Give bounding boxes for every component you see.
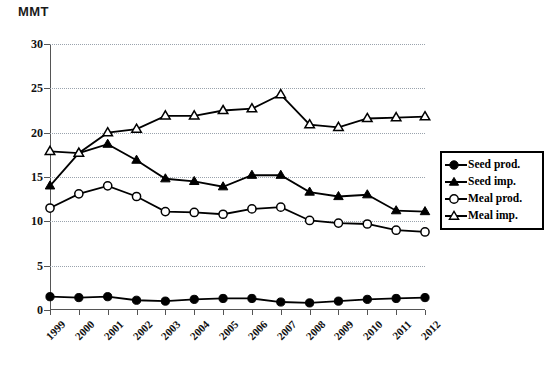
legend-label-meal-imp: Meal imp. [468,210,518,222]
chart-figure: MMT 051015202530 19992000200120022003200… [0,0,558,368]
x-tick-label: 2000 [72,318,96,342]
series-meal-prod [46,182,429,236]
x-tick-label: 1999 [43,318,67,342]
x-tick-label: 2003 [159,318,183,342]
data-point [219,294,227,302]
data-point [421,293,429,301]
data-point [45,146,55,154]
data-point [46,293,54,301]
x-tick-label: 2002 [130,318,154,342]
x-tick-label: 2010 [361,318,385,342]
x-tick-mark [367,310,368,315]
data-point [190,295,198,303]
x-tick-label: 2007 [274,318,298,342]
data-point [421,228,429,236]
legend-label-seed-prod: Seed prod. [468,159,520,171]
x-tick-mark [165,310,166,315]
data-point [334,297,342,305]
x-tick-mark [79,310,80,315]
x-tick-mark [310,310,311,315]
legend-key-filled-circle [445,158,467,172]
plot-area: 051015202530 199920002001200220032004200… [50,44,425,310]
data-point [363,295,371,303]
data-point [46,204,54,212]
y-tick-label: 5 [37,258,50,273]
data-point [334,219,342,227]
x-tick-mark [425,310,426,315]
x-tick-label: 2004 [188,318,212,342]
data-point [392,294,400,302]
chart-legend: Seed prod. Seed imp. Meal prod. Meal imp… [440,151,544,230]
x-tick-label: 2009 [332,318,356,342]
x-tick-mark [137,310,138,315]
x-tick-mark [108,310,109,315]
x-tick-mark [194,310,195,315]
x-tick-label: 2005 [217,318,241,342]
data-point [75,293,83,301]
data-point [277,298,285,306]
legend-label-seed-imp: Seed imp. [468,176,516,188]
y-axis-unit-label: MMT [18,4,49,19]
series-line [50,144,425,211]
y-tick-label: 30 [31,37,50,52]
data-point [363,190,373,198]
data-point [103,139,113,147]
y-tick-label: 20 [31,125,50,140]
data-point [132,192,140,200]
data-point [161,207,169,215]
x-tick-mark [252,310,253,315]
data-point [219,210,227,218]
x-tick-mark [396,310,397,315]
y-tick-label: 15 [31,170,50,185]
data-point [190,208,198,216]
data-point [161,297,169,305]
data-point [75,190,83,198]
x-tick-mark [281,310,282,315]
legend-item-meal-imp: Meal imp. [445,207,539,224]
y-tick-label: 25 [31,81,50,96]
x-tick-label: 2006 [245,318,269,342]
series-seed-imp [45,139,430,214]
data-point [392,226,400,234]
data-point [306,299,314,307]
data-point [247,170,256,178]
x-tick-label: 2011 [390,318,414,342]
data-point [161,174,171,182]
data-point [248,205,256,213]
x-tick-label: 2012 [418,318,442,342]
x-tick-mark [338,310,339,315]
legend-item-seed-prod: Seed prod. [445,156,539,173]
data-point [104,182,112,190]
legend-label-meal-prod: Meal prod. [468,193,522,205]
data-point [277,203,285,211]
legend-key-open-circle [445,192,467,206]
legend-item-meal-prod: Meal prod. [445,190,539,207]
data-point [161,111,171,119]
data-point [248,294,256,302]
x-tick-mark [50,310,51,315]
legend-key-open-triangle [445,209,467,223]
legend-item-seed-imp: Seed imp. [445,173,539,190]
data-point [104,293,112,301]
data-point [132,296,140,304]
data-point [276,90,286,98]
data-point [363,220,371,228]
legend-key-filled-triangle [445,175,467,189]
data-point [306,216,314,224]
x-tick-label: 2001 [101,318,125,342]
data-point [420,112,430,120]
series-seed-prod [46,293,429,307]
x-tick-label: 2008 [303,318,327,342]
y-tick-label: 0 [37,303,50,318]
y-tick-label: 10 [31,214,50,229]
series-layer [50,44,425,310]
data-point [276,170,286,178]
x-tick-mark [223,310,224,315]
